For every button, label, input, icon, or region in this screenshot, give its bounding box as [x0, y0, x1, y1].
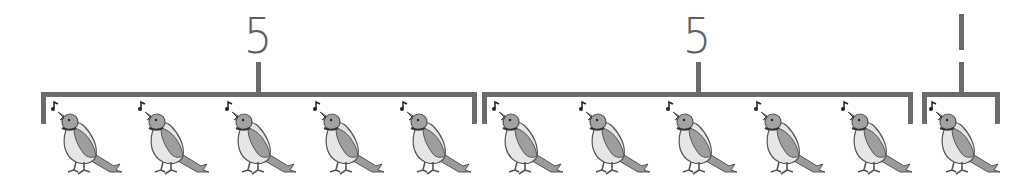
singing-bird-icon [576, 100, 656, 178]
group-3-count-label-one [959, 14, 964, 50]
group-2-count-label: 5 [679, 6, 715, 66]
singing-bird-icon [663, 100, 743, 178]
singing-bird-icon [310, 100, 390, 178]
group-2-bracket-stem [696, 62, 701, 94]
singing-bird-icon [838, 100, 918, 178]
singing-bird-icon [397, 100, 477, 178]
singing-bird-icon [489, 100, 569, 178]
group-1-bracket-stem [256, 62, 261, 94]
singing-bird-icon [926, 100, 1006, 178]
singing-bird-icon [48, 100, 128, 178]
group-3-bracket-stem [959, 62, 964, 94]
group-1-count-label: 5 [240, 6, 276, 66]
singing-bird-icon [751, 100, 831, 178]
grouping-diagram: 5 5 1 [0, 0, 1033, 183]
singing-bird-icon [135, 100, 215, 178]
singing-bird-icon [222, 100, 302, 178]
